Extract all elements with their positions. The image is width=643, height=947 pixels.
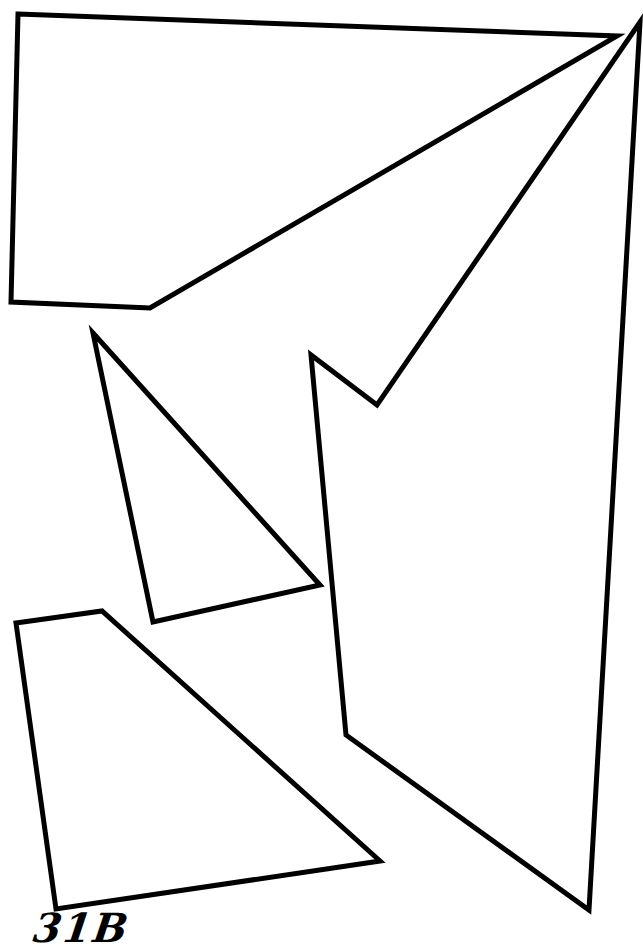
bottom-quadrilateral-shape bbox=[16, 611, 380, 909]
handwritten-label: 31B bbox=[31, 908, 132, 947]
middle-triangle-shape bbox=[93, 333, 320, 622]
